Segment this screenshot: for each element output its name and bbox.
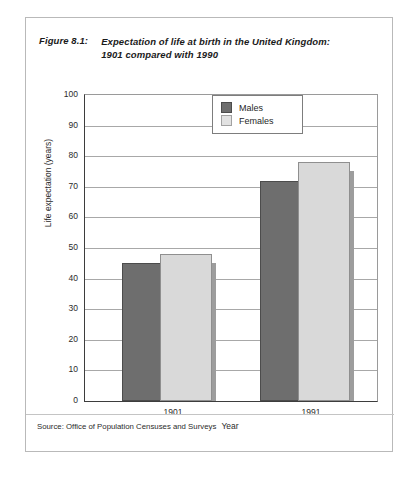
legend-swatch-females-icon	[221, 115, 232, 126]
y-tick-label-80: 80	[69, 150, 78, 160]
y-tick-label-70: 70	[69, 181, 78, 191]
bar-1901-females[interactable]	[160, 254, 212, 401]
y-axis-title: Life expectation (years)	[43, 113, 53, 253]
y-tick-label-90: 90	[69, 120, 78, 130]
legend-item-males[interactable]: Males	[221, 101, 295, 114]
y-tick-label-60: 60	[69, 211, 78, 221]
bar-group-1991	[255, 95, 365, 401]
x-tick-label-1991: 1991	[302, 407, 321, 417]
y-tick-label-30: 30	[69, 303, 78, 313]
legend-item-females[interactable]: Females	[221, 114, 295, 127]
y-tick-label-20: 20	[69, 334, 78, 344]
legend-label-females: Females	[239, 116, 274, 126]
legend-label-males: Males	[239, 103, 263, 113]
y-tick-label-50: 50	[69, 242, 78, 252]
y-tick-label-0: 0	[73, 395, 78, 405]
y-tick-label-100: 100	[64, 89, 78, 99]
plot-area	[84, 94, 378, 402]
source-note: Source: Office of Population Censuses an…	[37, 422, 216, 431]
source-divider	[26, 414, 394, 415]
figure-frame: Figure 8.1: Expectation of life at birth…	[25, 17, 393, 452]
bar-1991-females[interactable]	[298, 162, 350, 401]
x-tick-label-1901: 1901	[164, 407, 183, 417]
chart-legend: Males Females	[212, 95, 303, 134]
y-tick-label-40: 40	[69, 273, 78, 283]
y-tick-label-10: 10	[69, 364, 78, 374]
legend-swatch-males-icon	[221, 102, 232, 113]
bar-group-1901	[117, 95, 227, 401]
chart-container: 100 90 80 70 60 50 40 30 20 10 0 Life ex…	[26, 18, 394, 453]
